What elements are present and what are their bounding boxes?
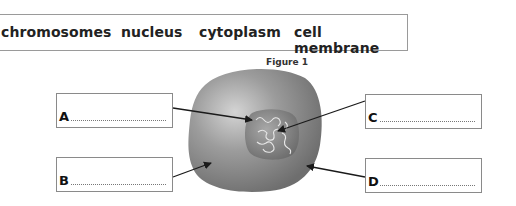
label-letter-c: C xyxy=(368,110,378,125)
label-box-d[interactable]: D xyxy=(365,158,482,193)
label-letter-b: B xyxy=(59,173,69,188)
label-box-a[interactable]: A xyxy=(56,93,173,128)
answer-line-d[interactable] xyxy=(380,185,475,186)
arrow-d xyxy=(307,166,365,177)
answer-line-c[interactable] xyxy=(380,121,475,122)
label-letter-d: D xyxy=(368,174,379,189)
label-box-b[interactable]: B xyxy=(56,157,173,192)
answer-line-b[interactable] xyxy=(71,184,166,185)
label-letter-a: A xyxy=(59,109,69,124)
label-box-c[interactable]: C xyxy=(365,94,482,129)
answer-line-a[interactable] xyxy=(71,120,166,121)
